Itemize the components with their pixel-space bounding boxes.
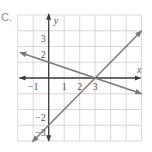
x-axis-label: x <box>136 64 142 75</box>
y-tick-label: 2 <box>41 49 46 60</box>
y-tick-label: −3 <box>35 127 46 138</box>
x-tick-label: 2 <box>77 81 82 92</box>
y-axis-label: y <box>53 15 59 26</box>
graph-figure: C. −112332−2−3xy <box>0 0 152 152</box>
y-tick-label: −2 <box>35 112 46 123</box>
x-tick-label: −1 <box>28 81 39 92</box>
coordinate-plane: −112332−2−3xy <box>0 0 152 152</box>
tick-labels: −112332−2−3xy <box>28 15 142 138</box>
part-label: C. <box>1 11 12 23</box>
x-tick-label: 3 <box>93 81 98 92</box>
x-tick-label: 1 <box>62 81 67 92</box>
y-tick-label: 3 <box>41 33 46 44</box>
